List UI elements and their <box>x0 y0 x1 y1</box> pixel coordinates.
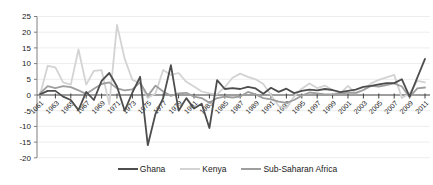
y-axis-label: -10 <box>19 122 31 131</box>
legend-label-sub-saharan-africa: Sub-Saharan Africa <box>263 164 337 174</box>
y-axis-label: 0 <box>27 91 32 100</box>
legend-item-sub-saharan-africa: Sub-Saharan Africa <box>241 164 337 174</box>
x-axis-label: 1997 <box>306 99 322 115</box>
y-axis-label: 20 <box>22 28 31 37</box>
series-line-kenya <box>40 25 425 108</box>
x-axis-label: 2007 <box>383 99 399 115</box>
chart-canvas: 2520151050-5-10-15-201961196319651967196… <box>0 0 433 185</box>
x-axis-label: 2001 <box>337 99 353 115</box>
x-axis-label: 1989 <box>244 99 260 115</box>
x-axis-label: 1985 <box>214 99 230 115</box>
growth-line-chart: 2520151050-5-10-15-201961196319651967196… <box>0 0 433 185</box>
legend-label-kenya: Kenya <box>202 164 226 174</box>
legend-swatch-sub-saharan-africa <box>241 168 261 170</box>
x-axis-label: 1969 <box>90 99 106 115</box>
x-axis-label: 2005 <box>368 99 384 115</box>
legend-swatch-ghana <box>118 168 138 170</box>
legend-item-kenya: Kenya <box>180 164 226 174</box>
legend-label-ghana: Ghana <box>140 164 166 174</box>
x-axis-label: 2009 <box>398 99 414 115</box>
x-axis-label: 1991 <box>260 99 276 115</box>
legend-item-ghana: Ghana <box>118 164 166 174</box>
chart-legend: GhanaKenyaSub-Saharan Africa <box>0 164 433 174</box>
x-axis-label: 1995 <box>291 99 307 115</box>
x-axis-label: 2011 <box>414 99 430 115</box>
y-axis-label: -20 <box>19 154 31 163</box>
legend-swatch-kenya <box>180 168 200 170</box>
x-axis-label: 1999 <box>321 99 337 115</box>
x-axis-label: 1965 <box>60 99 76 115</box>
x-axis-label: 2003 <box>352 99 368 115</box>
x-axis-label: 1987 <box>229 99 245 115</box>
x-axis-label: 1963 <box>44 99 60 115</box>
y-axis-label: 10 <box>22 59 31 68</box>
x-axis-label: 1977 <box>152 99 168 115</box>
y-axis-label: 15 <box>22 44 31 53</box>
y-axis-label: 25 <box>22 12 31 21</box>
y-axis-label: 5 <box>27 75 32 84</box>
y-axis-label: -15 <box>19 138 31 147</box>
